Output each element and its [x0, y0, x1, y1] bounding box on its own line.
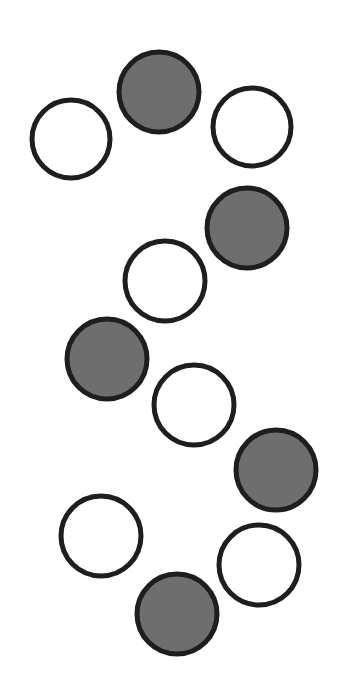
filled-circle [236, 430, 316, 510]
circle-pattern-diagram [0, 0, 344, 697]
empty-circle [125, 241, 205, 321]
empty-circle [154, 365, 234, 445]
empty-circle [32, 100, 110, 178]
empty-circle [61, 496, 141, 576]
filled-circle [119, 52, 199, 132]
filled-circle [207, 188, 287, 268]
filled-circle [137, 574, 217, 654]
filled-circle [67, 319, 147, 399]
empty-circle [213, 88, 291, 166]
empty-circle [219, 525, 299, 605]
